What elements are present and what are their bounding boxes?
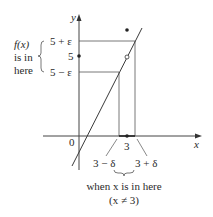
y-5-dot <box>77 54 81 58</box>
y-axis-label: y <box>70 11 76 23</box>
limit-diagram: y x 0 5 + ε 5 5 − ε 3 3 − δ 3 + δ f(x) i… <box>0 0 213 217</box>
y-tick-upper: 5 + ε <box>50 35 72 47</box>
pointer-right <box>137 139 147 156</box>
filled-point <box>125 28 129 32</box>
origin-label: 0 <box>69 136 75 148</box>
bottom-annotation-line2: (x ≠ 3) <box>109 194 139 207</box>
left-annotation-line3: here <box>14 64 33 76</box>
x-axis-label: x <box>193 138 199 150</box>
open-circle <box>125 55 129 59</box>
bottom-annotation-line1: when x is in here <box>86 180 161 192</box>
y-tick-lower: 5 − ε <box>50 66 72 78</box>
x-tick-left: 3 − δ <box>93 157 115 169</box>
y-tick-center: 5 <box>68 50 74 62</box>
function-line <box>72 28 142 166</box>
left-brace <box>38 41 44 72</box>
x-tick-center: 3 <box>124 140 130 152</box>
left-annotation-line2: is in <box>14 51 33 63</box>
pointer-left <box>106 139 117 156</box>
y-axis-arrow-icon <box>77 14 82 21</box>
left-annotation-line1: f(x) <box>14 38 30 51</box>
bottom-brace <box>114 170 134 176</box>
x-tick-right: 3 + δ <box>135 157 157 169</box>
